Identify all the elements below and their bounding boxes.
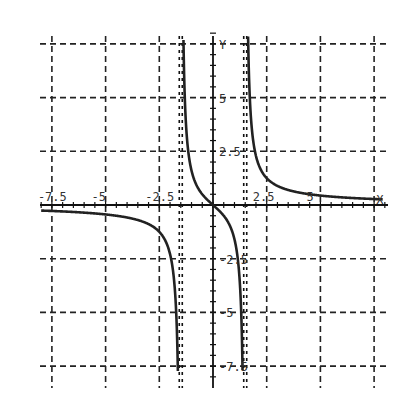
function-graph: -7.5-5-2.52.55Y52.5-2.5-5-7.5X <box>0 0 400 400</box>
x-axis-label: X <box>376 193 384 207</box>
x-tick-label: -7.5 <box>38 190 67 204</box>
x-tick-label: 2.5 <box>253 190 275 204</box>
y-tick-label: 2.5 <box>219 145 241 159</box>
y-tick-label: -2.5 <box>219 253 248 267</box>
y-tick-label: -5 <box>219 306 233 320</box>
axes <box>40 33 388 388</box>
x-tick-label: -5 <box>92 190 106 204</box>
curve-branch <box>248 37 383 200</box>
y-tick-label: Y <box>219 38 227 52</box>
x-tick-label: 5 <box>306 190 313 204</box>
curve-branch <box>41 211 178 372</box>
y-tick-label: 5 <box>219 92 226 106</box>
y-tick-label: -7.5 <box>219 360 248 374</box>
x-tick-label: -2.5 <box>145 190 174 204</box>
